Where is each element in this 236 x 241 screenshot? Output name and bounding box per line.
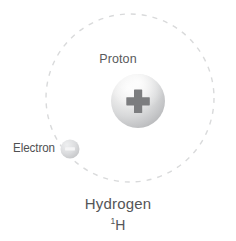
- element-name-label: Hydrogen: [0, 196, 236, 211]
- isotope-symbol-label: 1H: [0, 218, 236, 232]
- hydrogen-atom-diagram: Proton Electron Hydrogen 1H: [0, 0, 236, 241]
- electron-label: Electron: [13, 142, 55, 155]
- minus-sign-icon: [65, 147, 75, 150]
- electron-particle: [61, 140, 80, 159]
- proton-label: Proton: [0, 53, 236, 66]
- proton-nucleus: [111, 74, 165, 128]
- isotope-element-symbol: H: [115, 217, 125, 233]
